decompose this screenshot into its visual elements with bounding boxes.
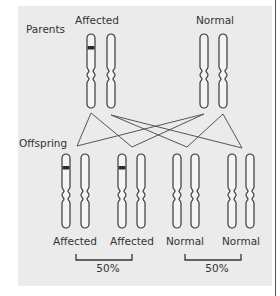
- parent-affected-label: Affected: [75, 14, 119, 26]
- offspring-1-chromosomes: [62, 154, 89, 228]
- offspring-3-label: Normal: [166, 235, 204, 247]
- chromosome-with-mutation: [87, 34, 95, 108]
- chromosome-normal: [107, 34, 115, 108]
- normal-percent-label: 50%: [205, 262, 228, 274]
- mutation-band: [119, 166, 126, 170]
- mutation-band: [88, 46, 95, 50]
- offspring-label: Offspring: [19, 137, 67, 149]
- offspring-2-label: Affected: [110, 235, 154, 247]
- offspring-2-chromosomes: [118, 154, 145, 228]
- parent-normal-chromosomes: [200, 34, 227, 108]
- bracket-affected: [76, 254, 132, 260]
- inheritance-lines: [77, 113, 242, 148]
- parents-label: Parents: [26, 23, 65, 35]
- parent-affected-chromosomes: [87, 34, 115, 108]
- affected-percent-label: 50%: [96, 262, 119, 274]
- offspring-1-label: Affected: [53, 235, 97, 247]
- bracket-normal: [185, 254, 241, 260]
- offspring-4-label: Normal: [222, 235, 260, 247]
- chromosome-normal: [219, 34, 227, 108]
- offspring-3-chromosomes: [173, 154, 199, 228]
- chromosome-normal: [200, 34, 208, 108]
- offspring-4-chromosomes: [228, 154, 254, 228]
- parent-normal-label: Normal: [196, 14, 234, 26]
- mutation-band: [63, 166, 70, 170]
